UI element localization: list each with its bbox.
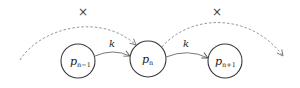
node-previous: pn−1 bbox=[61, 44, 95, 78]
node-next: pn+1 bbox=[208, 44, 242, 78]
cross-mark-left: × bbox=[78, 5, 88, 19]
cross-mark-right: × bbox=[212, 5, 222, 19]
diagram-canvas: × × k k pn−1 pn pn+1 bbox=[0, 0, 300, 88]
node-previous-label: p bbox=[70, 55, 77, 68]
solid-edge-prev-to-current bbox=[95, 52, 130, 56]
edge-label-k-right: k bbox=[183, 38, 189, 49]
node-next-label: p bbox=[215, 55, 222, 68]
node-current-label: p bbox=[142, 53, 149, 66]
node-next-subscript: n+1 bbox=[222, 61, 236, 69]
node-previous-subscript: n−1 bbox=[77, 61, 91, 69]
node-current: pn bbox=[130, 41, 166, 77]
edge-label-k-left: k bbox=[109, 38, 115, 49]
solid-edge-current-to-next bbox=[166, 53, 208, 58]
node-current-subscript: n bbox=[149, 59, 153, 67]
